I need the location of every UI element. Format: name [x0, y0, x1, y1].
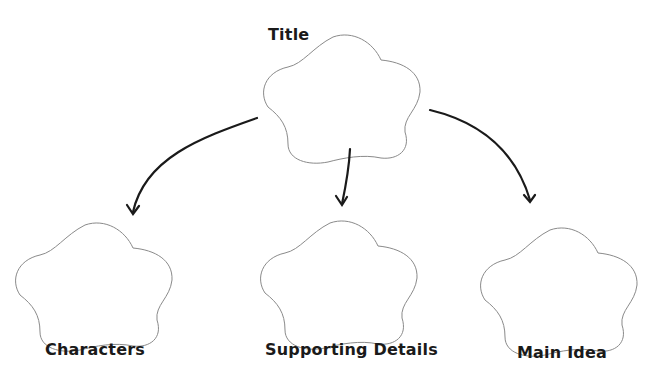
supporting-details-node-shape	[261, 221, 417, 349]
title-label: Title	[268, 25, 309, 44]
characters-node-shape	[16, 223, 172, 351]
main-idea-node-shape	[481, 228, 637, 356]
main-idea-label: Main Idea	[517, 343, 607, 362]
supporting-details-label: Supporting Details	[265, 340, 438, 359]
title-node-shape	[264, 35, 420, 163]
arrow-to-characters	[127, 118, 257, 214]
characters-label: Characters	[45, 340, 145, 359]
diagram-canvas	[0, 0, 665, 376]
arrow-to-main-idea	[430, 110, 535, 202]
